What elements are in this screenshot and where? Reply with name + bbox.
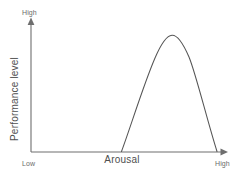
y-axis-arrowhead (28, 18, 35, 26)
y-axis-high-tick-label: High (22, 9, 37, 16)
chart-plot-area (0, 0, 244, 174)
x-axis-high-tick-label: High (215, 160, 230, 167)
yerkes-dodson-chart: High Performance level Low Arousal High (0, 0, 244, 174)
x-axis-title: Arousal (0, 155, 244, 165)
y-axis-title: Performance level (8, 34, 22, 164)
performance-curve (122, 35, 218, 151)
